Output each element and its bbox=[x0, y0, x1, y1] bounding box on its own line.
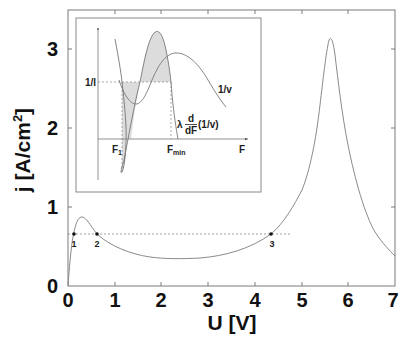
point-3 bbox=[269, 232, 273, 236]
point-1-label: 1 bbox=[71, 239, 76, 249]
inset-y-arrow bbox=[97, 28, 99, 30]
svg-text:5: 5 bbox=[296, 289, 307, 311]
svg-text:0: 0 bbox=[47, 275, 58, 297]
svg-text:2: 2 bbox=[47, 117, 58, 139]
point-2 bbox=[95, 232, 99, 236]
y-tick-labels: 0 1 2 3 bbox=[47, 38, 58, 297]
inset-frac-num: d bbox=[188, 113, 194, 124]
point-1 bbox=[72, 232, 76, 236]
svg-text:6: 6 bbox=[342, 289, 353, 311]
inset-panel: 1/l 1/v λ d dF (1/v) F1 Fmin F bbox=[76, 18, 261, 192]
svg-text:1: 1 bbox=[47, 196, 58, 218]
inset-lambda-label: λ bbox=[177, 119, 183, 130]
y-axis-title: j [A/cm2] bbox=[10, 108, 34, 193]
svg-text:0: 0 bbox=[62, 289, 73, 311]
inset-frame bbox=[76, 18, 261, 192]
svg-text:2: 2 bbox=[155, 289, 166, 311]
point-2-label: 2 bbox=[94, 239, 99, 249]
x-tick-labels: 0 1 2 3 4 5 6 7 bbox=[62, 289, 398, 311]
svg-text:4: 4 bbox=[249, 289, 261, 311]
inset-frac-den: dF bbox=[185, 125, 197, 136]
inset-1v-label: 1/v bbox=[218, 84, 232, 95]
x-axis-title: U [V] bbox=[208, 311, 257, 334]
svg-text:3: 3 bbox=[202, 289, 213, 311]
inset-frac-tail: (1/v) bbox=[198, 119, 219, 130]
inset-f-axis-label: F bbox=[239, 144, 245, 155]
point-3-label: 3 bbox=[269, 239, 274, 249]
svg-text:3: 3 bbox=[47, 38, 58, 60]
inset-1l-label: 1/l bbox=[85, 77, 96, 88]
svg-text:7: 7 bbox=[387, 289, 398, 311]
svg-text:1: 1 bbox=[109, 289, 120, 311]
chart-svg: 0 1 2 3 4 5 6 7 0 1 2 3 U [V] j [A/cm2] … bbox=[0, 0, 409, 344]
